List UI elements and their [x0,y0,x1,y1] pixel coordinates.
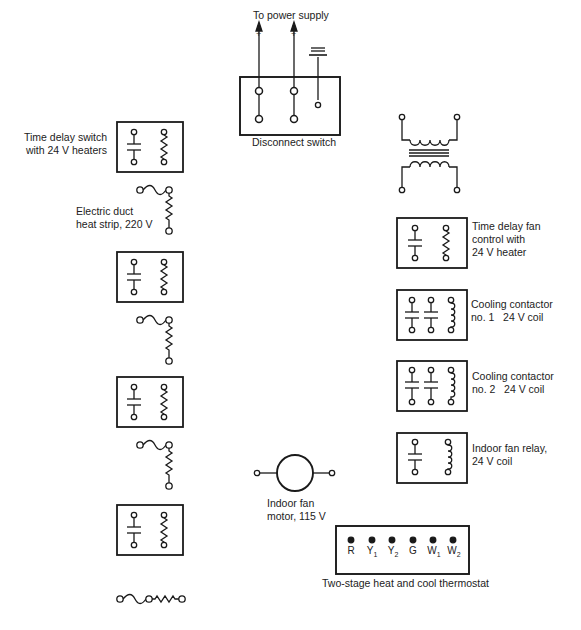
power-supply-label: To power supply [253,9,329,22]
positive-terminal-label: + [291,28,296,41]
time-delay-fan-label: Time delay fan control with 24 V heater [472,220,540,259]
cooling-contactor-2-box [397,361,467,411]
time-delay-fan-box [397,218,467,268]
heat-strip-label: Electric duct heat strip, 220 V [76,205,152,231]
left-heat-strip-3 [137,441,172,490]
left-relay-2 [117,252,183,302]
positive-terminal-label: + [256,28,261,41]
left-relay-3 [117,377,183,427]
thermostat-terminal-y1: Y1 [362,545,382,558]
indoor-fan-relay-label: Indoor fan relay, 24 V coil [472,442,547,468]
time-delay-switch-label: Time delay switch with 24 V heaters [24,131,107,157]
thermostat-terminal-g: G [403,545,423,558]
thermostat-terminal-y2: Y2 [383,545,403,558]
left-relay-1 [117,122,183,172]
left-heat-strip-4 [117,595,185,604]
indoor-fan-relay-box [397,433,467,483]
left-heat-strip-2 [137,316,172,365]
indoor-fan-motor [254,455,334,491]
cooling-contactor-2-label: Cooling contactor no. 2 24 V coil [472,370,554,396]
thermostat-terminal-w1: W1 [424,545,444,558]
disconnect-switch-label: Disconnect switch [252,136,336,149]
thermostat-terminal-w2: W2 [444,545,464,558]
left-relay-4 [117,505,183,555]
transformer [399,114,459,192]
indoor-fan-motor-label: Indoor fan motor, 115 V [267,497,326,523]
thermostat-label: Two-stage heat and cool thermostat [322,577,489,590]
cooling-contactor-1-label: Cooling contactor no. 1 24 V coil [471,298,553,324]
cooling-contactor-1-box [397,290,467,340]
thermostat-terminal-r: R [341,545,361,558]
disconnect-switch [240,77,340,135]
